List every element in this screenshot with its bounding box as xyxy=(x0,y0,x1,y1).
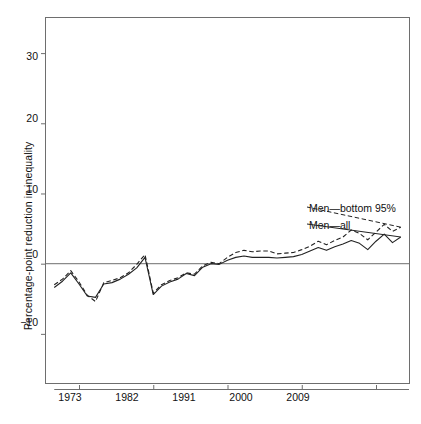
x-axis-ticks xyxy=(80,385,377,389)
series-line-men-bottom-95 xyxy=(54,224,401,301)
legend-leader-dashed xyxy=(307,207,401,227)
plot-area xyxy=(0,0,421,424)
axis-frame xyxy=(46,18,410,384)
legend-leader-solid xyxy=(307,224,401,237)
chart-figure: Percentage-point reduction in inequality… xyxy=(0,0,421,424)
series-line-men-all xyxy=(54,234,401,297)
plot-frame xyxy=(46,18,410,384)
